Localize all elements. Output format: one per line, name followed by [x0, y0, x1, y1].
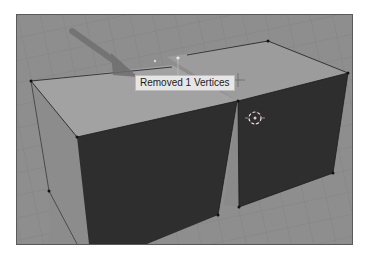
selected-vertex[interactable] [154, 60, 156, 62]
vertex [332, 172, 335, 175]
3d-viewport[interactable]: Removed 1 Vertices [16, 14, 353, 245]
vertex [76, 136, 79, 139]
vertex [238, 206, 241, 209]
left-cube[interactable] [30, 65, 238, 244]
vertex [267, 40, 270, 43]
status-tooltip: Removed 1 Vertices [135, 75, 235, 91]
vertex [48, 190, 51, 193]
vertex [217, 214, 220, 217]
scene [17, 15, 352, 244]
vertex [347, 72, 350, 75]
vertex [30, 80, 33, 83]
